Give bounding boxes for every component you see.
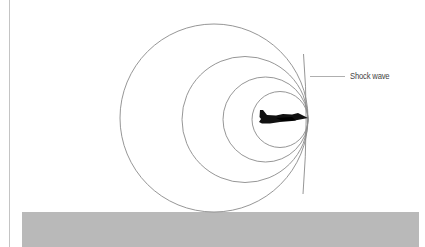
jet-aircraft-icon <box>259 110 308 124</box>
shock-wave-diagram <box>0 0 425 247</box>
ground-band <box>22 212 419 247</box>
shock-wave-label: Shock wave <box>350 71 389 81</box>
shock-wave-line <box>303 54 306 194</box>
